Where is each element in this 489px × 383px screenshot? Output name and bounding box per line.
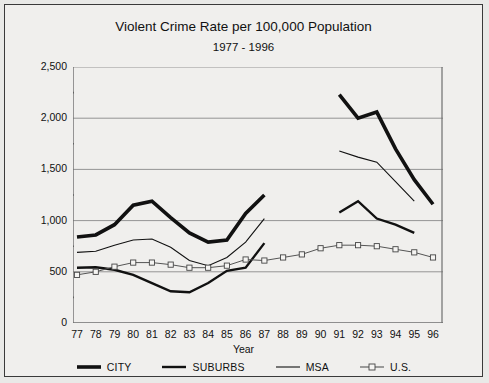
data-point-marker [355,243,360,248]
data-point-marker [374,244,379,249]
series-line-suburbs [77,243,264,292]
data-point-marker [168,262,173,267]
y-axis-tick-label: 500 [21,265,67,277]
y-axis-tick-label: 1,500 [21,162,67,174]
legend-item-suburbs[interactable]: SUBURBS [161,361,244,373]
data-point-marker [281,255,286,260]
data-point-marker [412,250,417,255]
legend-label: SUBURBS [192,361,244,373]
data-point-marker [337,243,342,248]
chart-subtitle: 1977 - 1996 [5,41,482,53]
data-point-marker [318,246,323,251]
data-point-marker [224,263,229,268]
data-series-group [74,95,435,293]
legend-label: MSA [306,361,329,373]
y-axis-tick-label: 0 [21,316,67,328]
x-axis-tick-label: 96 [422,328,444,340]
chart-legend: CITYSUBURBSMSAU.S. [5,361,482,373]
data-point-marker [187,265,192,270]
data-point-marker [93,269,98,274]
legend-label: CITY [107,361,132,373]
data-point-marker [299,252,304,257]
data-point-marker [74,272,79,277]
legend-swatch-thick-solid [76,362,102,372]
legend-label: U.S. [390,361,411,373]
y-axis-tick-label: 2,500 [21,60,67,72]
data-point-marker [262,258,267,263]
data-point-marker [243,257,248,262]
legend-item-us[interactable]: U.S. [359,361,411,373]
legend-swatch-thin-solid [275,362,301,372]
data-point-marker [206,265,211,270]
series-line-city [77,195,264,242]
plot-area [73,67,443,323]
series-line-city [339,95,433,205]
legend-item-msa[interactable]: MSA [275,361,329,373]
chart-title: Violent Crime Rate per 100,000 Populatio… [5,19,482,34]
x-axis-title: Year [5,343,482,355]
y-axis-tick-label: 2,000 [21,111,67,123]
legend-swatch-thin-solid-square-marker [359,362,385,372]
data-point-marker [393,247,398,252]
data-point-marker [131,260,136,265]
chart-frame: Violent Crime Rate per 100,000 Populatio… [4,4,483,377]
legend-swatch-medium-solid [161,362,187,372]
data-point-marker [112,264,117,269]
data-point-marker [430,255,435,260]
data-point-marker [149,260,154,265]
legend-item-city[interactable]: CITY [76,361,132,373]
chart-svg [73,67,443,323]
series-line-suburbs [339,201,414,233]
y-axis-tick-label: 1,000 [21,214,67,226]
